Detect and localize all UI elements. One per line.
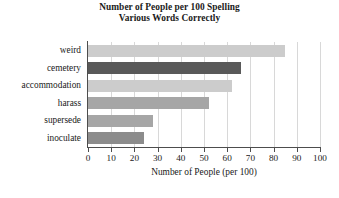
bar-series — [88, 42, 320, 147]
plot-area — [88, 42, 320, 147]
chart-title: Number of People per 100 Spelling Variou… — [0, 2, 339, 24]
bar-supersede — [88, 115, 153, 127]
bar-weird — [88, 45, 285, 57]
bar-cemetery — [88, 62, 241, 74]
bar-row — [88, 112, 320, 130]
tick-label-100: 100 — [305, 152, 335, 164]
category-label-accommodation: accommodation — [0, 77, 84, 95]
category-axis-labels: weirdcemeteryaccommodationharasssupersed… — [0, 42, 84, 147]
category-label-inoculate: inoculate — [0, 130, 84, 148]
bar-row — [88, 60, 320, 78]
bar-row — [88, 77, 320, 95]
bar-row — [88, 95, 320, 113]
chart-title-line-2: Various Words Correctly — [0, 13, 339, 24]
y-axis-line — [87, 41, 88, 148]
x-axis-tick-labels: 0102030405060708090100 — [88, 152, 320, 165]
gridline-100 — [320, 42, 321, 147]
bar-chart-figure: Number of People per 100 Spelling Variou… — [0, 0, 339, 198]
bar-inoculate — [88, 132, 144, 144]
page-scan-artifact — [4, 189, 254, 196]
x-axis-title: Number of People (per 100) — [88, 166, 320, 178]
category-label-harass: harass — [0, 95, 84, 113]
bar-row — [88, 130, 320, 148]
bar-harass — [88, 97, 209, 109]
category-label-weird: weird — [0, 42, 84, 60]
bar-accommodation — [88, 80, 232, 92]
bar-row — [88, 42, 320, 60]
category-label-cemetery: cemetery — [0, 60, 84, 78]
category-label-supersede: supersede — [0, 112, 84, 130]
chart-title-line-1: Number of People per 100 Spelling — [0, 2, 339, 13]
